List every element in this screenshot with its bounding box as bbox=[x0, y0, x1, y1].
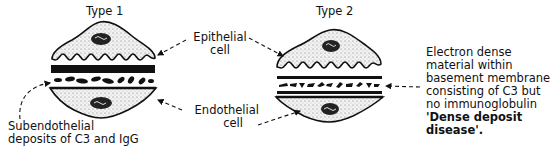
dense-deposit-leader bbox=[386, 86, 420, 87]
endothelial-leader-type1 bbox=[158, 100, 182, 110]
endothelial-cell-label: Endothelial cell bbox=[187, 104, 259, 130]
type2-title: Type 2 bbox=[316, 5, 353, 18]
endothelial-leader-type2 bbox=[258, 111, 300, 125]
type2-glomerulus bbox=[276, 30, 383, 122]
type2-dense-deposits bbox=[279, 82, 380, 88]
epithelial-leader-type2 bbox=[249, 38, 283, 56]
type1-epithelial-nucleus bbox=[91, 33, 111, 45]
type1-subendothelial-deposits bbox=[54, 75, 154, 85]
type2-note: Electron dense material within basement … bbox=[426, 46, 550, 137]
type1-basement-membrane bbox=[51, 65, 155, 73]
type2-basement-membrane-upper bbox=[277, 76, 382, 79]
type1-note: Subendothelial deposits of C3 and IgG bbox=[8, 120, 139, 146]
type1-title: Type 1 bbox=[86, 5, 123, 18]
type2-epithelial-nucleus bbox=[322, 40, 340, 52]
epithelial-cell-label: Epithelial cell bbox=[188, 31, 252, 57]
type1-endothelial-nucleus bbox=[90, 97, 112, 109]
type1-glomerulus bbox=[50, 22, 156, 118]
subendothelial-leader bbox=[20, 83, 50, 119]
type2-basement-membrane-lower bbox=[277, 91, 382, 94]
epithelial-leader-type1 bbox=[158, 40, 186, 55]
